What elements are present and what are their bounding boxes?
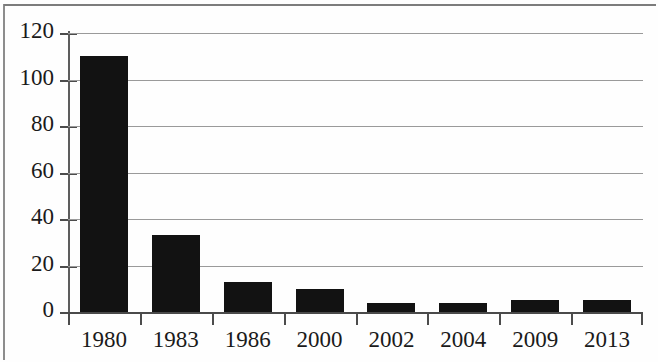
bar-1980	[80, 56, 128, 312]
x-axis-label-2004: 2004	[427, 327, 499, 353]
plot-area	[68, 33, 643, 312]
x-axis-tick-2013	[571, 314, 573, 325]
bar-1986	[224, 282, 272, 312]
bar-2000	[296, 289, 344, 312]
x-axis-label-2013: 2013	[571, 327, 643, 353]
x-axis-label-2000: 2000	[284, 327, 356, 353]
x-axis-tick-1983	[140, 314, 142, 325]
bar-2009	[511, 300, 559, 312]
x-axis-tick-2002	[356, 314, 358, 325]
x-axis-end-cap	[641, 314, 643, 325]
x-axis-tick-1986	[212, 314, 214, 325]
y-axis-label-100: 100	[0, 65, 54, 91]
gridline-80	[68, 126, 643, 127]
y-axis-label-80: 80	[0, 111, 54, 137]
gridline-100	[68, 80, 643, 81]
page-border-top	[4, 4, 656, 6]
bar-2013	[583, 300, 631, 312]
x-axis-tick-2009	[499, 314, 501, 325]
x-axis-tick-2000	[284, 314, 286, 325]
x-axis-label-2002: 2002	[356, 327, 428, 353]
y-axis-label-40: 40	[0, 204, 54, 230]
bar-2002	[367, 303, 415, 312]
y-axis-label-60: 60	[0, 158, 54, 184]
x-axis-label-2009: 2009	[499, 327, 571, 353]
bar-1983	[152, 235, 200, 312]
x-axis-label-1986: 1986	[212, 327, 284, 353]
y-axis-label-20: 20	[0, 251, 54, 277]
x-axis-label-1980: 1980	[68, 327, 140, 353]
gridline-120	[68, 33, 643, 34]
gridline-40	[68, 219, 643, 220]
gridline-60	[68, 173, 643, 174]
bar-2004	[439, 303, 487, 312]
x-axis-tick-1980	[68, 314, 70, 325]
bar-chart-figure: 020406080100120 198019831986200020022004…	[0, 0, 658, 362]
x-axis-tick-2004	[427, 314, 429, 325]
y-axis-label-0: 0	[0, 297, 54, 323]
x-axis-label-1983: 1983	[140, 327, 212, 353]
y-axis-label-120: 120	[0, 18, 54, 44]
